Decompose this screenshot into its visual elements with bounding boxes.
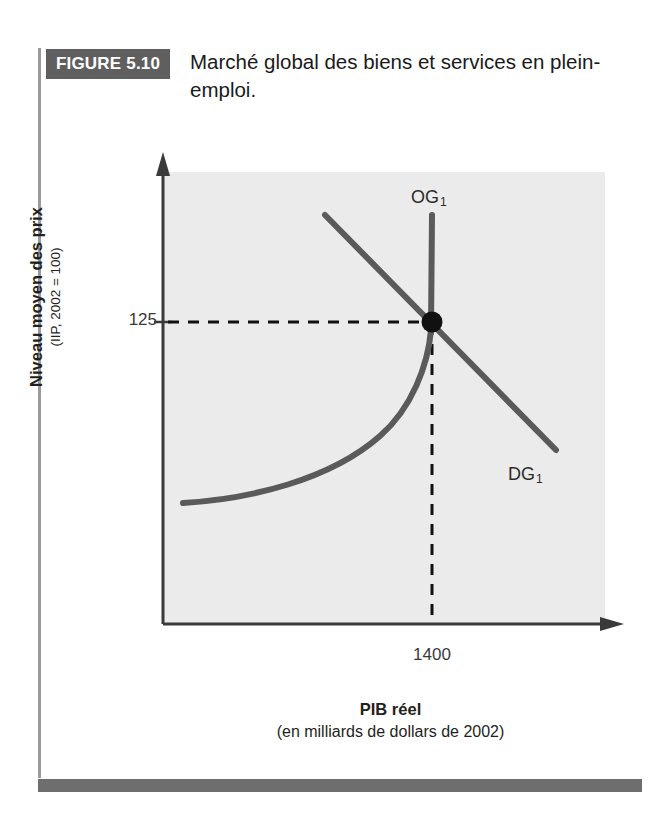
x-axis-title-main: PIB réel [163,698,618,720]
figure-page: FIGURE 5.10 Marché global des biens et s… [0,0,663,824]
x-axis-tick-label: 1400 [392,645,472,665]
y-axis-title-main: Niveau moyen des prix [26,182,47,412]
supply-curve-label: OG1 [411,187,447,208]
plot-background [163,172,605,624]
y-axis-tick-label: 125 [113,310,157,330]
supply-curve-label-subscript: 1 [439,195,447,209]
y-axis-title: Niveau moyen des prix (IIP, 2002 = 100) [26,182,72,412]
demand-curve-label-text: DG [508,464,535,484]
demand-curve-label-subscript: 1 [535,472,543,486]
x-axis-title-sub: (en milliards de dollars de 2002) [163,720,618,743]
supply-curve-label-text: OG [411,187,439,207]
y-axis-arrowhead [156,152,170,176]
x-axis-arrowhead [600,617,624,631]
y-axis-title-sub: (IIP, 2002 = 100) [47,182,65,412]
x-axis-title: PIB réel (en milliards de dollars de 200… [163,698,618,743]
equilibrium-point-marker [422,312,443,333]
demand-curve-label: DG1 [508,464,543,485]
